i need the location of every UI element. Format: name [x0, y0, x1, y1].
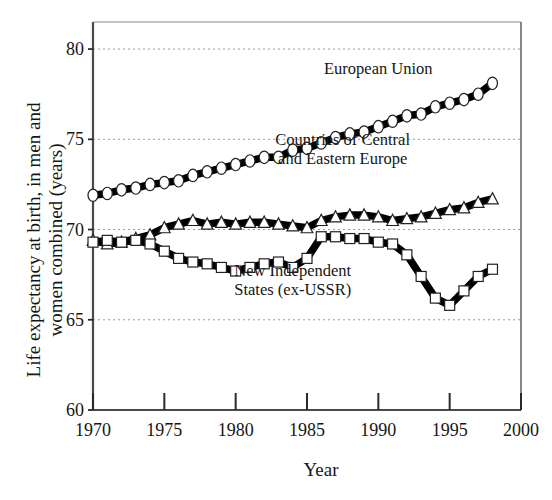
data-point-circle: [102, 187, 112, 199]
data-point-square: [174, 253, 184, 263]
x-tick-label: 1990: [360, 420, 396, 440]
chart-figure: European UnionCountries of Centraland Ea…: [0, 0, 552, 500]
data-point-square: [473, 271, 483, 281]
data-point-square: [487, 264, 497, 274]
data-point-square: [131, 235, 141, 245]
x-tick-labels: 1970197519801985199019952000: [75, 420, 539, 440]
data-point-circle: [388, 115, 398, 127]
x-axis-title: Year: [303, 459, 339, 480]
x-tick-label: 1980: [218, 420, 254, 440]
data-point-square: [102, 235, 112, 245]
data-point-circle: [430, 101, 440, 113]
x-tick-label: 2000: [503, 420, 539, 440]
x-axis-ticks: [93, 393, 521, 410]
series-annotations: European UnionCountries of Centraland Ea…: [234, 59, 432, 299]
data-point-square: [459, 286, 469, 296]
y-tick-label: 60: [66, 400, 84, 420]
data-point-square: [373, 237, 383, 247]
series-label-1: Countries of Central: [275, 130, 410, 149]
data-point-circle: [117, 184, 127, 196]
data-point-square: [388, 239, 398, 249]
data-point-square: [316, 232, 326, 242]
data-point-square: [202, 259, 212, 269]
series-label-1: and Eastern Europe: [278, 149, 407, 168]
x-tick-label: 1970: [75, 420, 111, 440]
data-point-square: [117, 237, 127, 247]
y-tick-label: 70: [66, 220, 84, 240]
line-chart-canvas: European UnionCountries of Centraland Ea…: [0, 0, 552, 500]
data-point-circle: [245, 155, 255, 167]
data-point-circle: [188, 169, 198, 181]
y-tick-label: 80: [66, 39, 84, 59]
data-point-circle: [216, 162, 226, 174]
data-point-square: [145, 239, 155, 249]
plot-frame: [93, 22, 521, 410]
data-point-square: [345, 234, 355, 244]
data-point-square: [331, 232, 341, 242]
series-label-2: New Independent: [234, 261, 351, 280]
series-label-2: States (ex-USSR): [234, 280, 351, 299]
data-point-circle: [487, 77, 497, 89]
x-tick-label: 1975: [146, 420, 182, 440]
y-tick-label: 75: [66, 129, 84, 149]
data-point-square: [402, 250, 412, 260]
data-point-circle: [259, 151, 269, 163]
data-point-square: [359, 234, 369, 244]
data-point-circle: [131, 182, 141, 194]
x-tick-label: 1995: [432, 420, 468, 440]
x-tick-label: 1985: [289, 420, 325, 440]
data-point-square: [445, 300, 455, 310]
data-point-square: [216, 262, 226, 272]
data-point-circle: [231, 158, 241, 170]
data-point-square: [416, 271, 426, 281]
data-point-circle: [145, 178, 155, 190]
data-point-circle: [473, 88, 483, 100]
data-point-circle: [402, 110, 412, 122]
y-tick-labels: 6065707580: [66, 39, 84, 420]
series-label-0: European Union: [324, 59, 433, 78]
data-point-square: [159, 246, 169, 256]
y-axis-title-line2: women combined (years): [45, 143, 67, 336]
data-point-circle: [202, 166, 212, 178]
data-point-circle: [459, 93, 469, 105]
y-axis-title-line1: Life expectancy at birth, in men and: [23, 102, 44, 377]
data-point-square: [188, 257, 198, 267]
data-point-circle: [88, 189, 98, 201]
data-point-circle: [445, 97, 455, 109]
data-point-circle: [159, 176, 169, 188]
data-point-circle: [416, 108, 426, 120]
data-point-circle: [174, 175, 184, 187]
y-tick-label: 65: [66, 310, 84, 330]
data-point-square: [88, 237, 98, 247]
data-point-square: [430, 293, 440, 303]
